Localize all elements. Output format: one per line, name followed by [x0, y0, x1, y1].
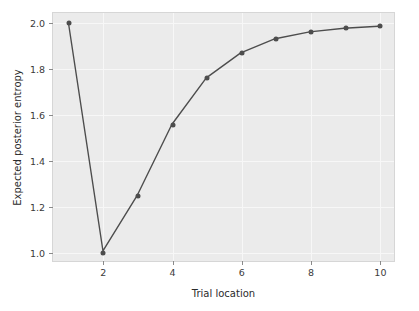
data-point [309, 30, 314, 35]
y-tick-label: 1.6 [30, 110, 45, 121]
data-point [378, 24, 383, 29]
data-point [66, 21, 71, 26]
data-point [135, 194, 140, 199]
x-tick-label: 10 [374, 267, 386, 278]
data-point [239, 51, 244, 56]
x-tick-mark [242, 261, 243, 265]
plot-area: 1.01.21.41.61.82.0246810 [52, 12, 395, 262]
data-point [101, 250, 106, 255]
y-tick-label: 1.8 [30, 64, 45, 75]
x-tick-label: 2 [100, 267, 106, 278]
y-tick-label: 2.0 [30, 18, 45, 29]
line-path [53, 13, 394, 261]
x-tick-mark [103, 261, 104, 265]
y-axis-title: Expected posterior entropy [10, 12, 24, 262]
x-tick-label: 6 [239, 267, 245, 278]
x-tick-mark [380, 261, 381, 265]
data-point [343, 26, 348, 31]
data-series-layer [53, 13, 394, 261]
x-tick-label: 4 [169, 267, 175, 278]
x-axis-title: Trial location [52, 288, 395, 299]
x-tick-mark [173, 261, 174, 265]
data-point [205, 76, 210, 81]
chart-figure: 1.01.21.41.61.82.0246810 Trial location … [0, 0, 419, 311]
y-axis-title-text: Expected posterior entropy [12, 69, 23, 206]
y-tick-label: 1.2 [30, 201, 45, 212]
x-tick-label: 8 [308, 267, 314, 278]
y-tick-label: 1.4 [30, 155, 45, 166]
y-tick-label: 1.0 [30, 247, 45, 258]
x-tick-mark [311, 261, 312, 265]
data-point [274, 36, 279, 41]
data-point [170, 123, 175, 128]
